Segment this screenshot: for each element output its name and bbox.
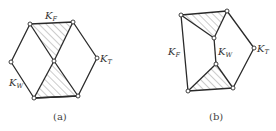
node-b-topleft [179,13,183,17]
label-b-kw: KW [217,46,233,59]
label-a-kf: KF [44,10,57,23]
edge-innertop-innerbottom [214,38,216,64]
node-a-left [9,60,13,64]
node-a-right [95,56,99,60]
panel-a-diagram: KF KT KW (a) [8,10,112,122]
node-a-bottomright [76,94,80,98]
node-b-bottomleft [186,89,190,93]
node-b-topright [225,9,229,13]
hatched-region-bottom [34,61,78,98]
node-a-center [52,59,56,63]
caption-a: (a) [53,111,67,122]
node-a-bottomleft [32,96,36,100]
label-b-kf: KF [167,46,180,59]
caption-b: (b) [209,111,223,122]
node-a-topleft [28,22,32,26]
node-b-bottomright [231,86,235,90]
label-b-kt: KT [256,43,269,56]
node-b-innerbottom [214,62,218,66]
node-a-topright [71,20,75,24]
panel-b-diagram: KF KW KT (b) [167,9,269,122]
hatched-region-top [30,22,73,61]
figure-canvas: KF KT KW (a) KF KW KT (b) [0,0,276,131]
node-b-right [252,46,256,50]
label-a-kt: KT [99,53,112,66]
node-b-innertop [212,36,216,40]
